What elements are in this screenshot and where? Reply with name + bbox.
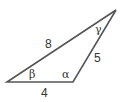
side-label-8: 8 <box>45 37 52 51</box>
side-label-5: 5 <box>94 51 101 65</box>
side-label-4: 4 <box>41 86 48 100</box>
angle-label-alpha: α <box>62 68 70 81</box>
triangle-diagram: 8 5 4 β α γ <box>0 0 123 102</box>
angle-label-beta: β <box>29 68 35 81</box>
angle-label-gamma: γ <box>95 23 102 36</box>
